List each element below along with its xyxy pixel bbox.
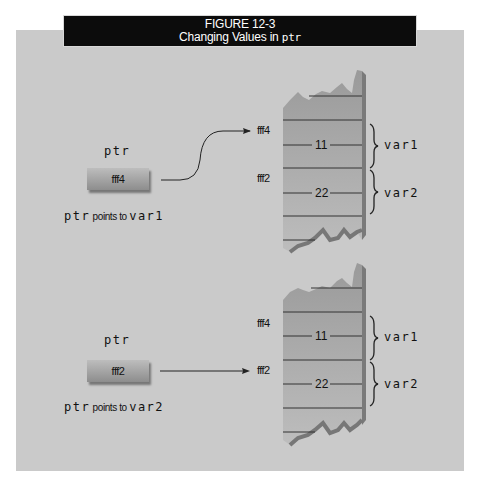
diagram-graphics xyxy=(0,0,478,490)
cell-value-var2-top: 22 xyxy=(315,186,328,200)
cell-value-var2-bottom: 22 xyxy=(315,377,328,391)
address-fff4-bottom: fff4 xyxy=(257,317,270,329)
address-fff2-top: fff2 xyxy=(257,172,270,184)
caption-top: ptr points to var1 xyxy=(64,209,164,223)
cell-value-var1-bottom: 11 xyxy=(315,329,327,343)
brace-var2-bottom xyxy=(370,362,378,406)
pointer-box-bottom: fff2 xyxy=(87,360,149,382)
memory-stack-top xyxy=(283,70,366,252)
caption-bottom: ptr points to var2 xyxy=(64,400,164,414)
brace-var1-top xyxy=(370,124,378,168)
memory-stack-bottom xyxy=(283,263,366,445)
pointer-box-top: fff4 xyxy=(87,168,149,190)
var-label-var2-top: var2 xyxy=(384,186,419,200)
pointer-label-top: ptr xyxy=(104,144,130,158)
arrow-ptr-to-fff4 xyxy=(161,131,250,180)
var-label-var1-top: var1 xyxy=(384,138,419,152)
var-label-var1-bottom: var1 xyxy=(384,330,419,344)
cell-value-var1-top: 11 xyxy=(315,138,327,152)
address-fff2-bottom: fff2 xyxy=(257,364,270,376)
brace-var1-bottom xyxy=(370,316,378,360)
address-fff4-top: fff4 xyxy=(257,124,270,136)
brace-var2-top xyxy=(370,170,378,214)
var-label-var2-bottom: var2 xyxy=(384,377,419,391)
pointer-label-bottom: ptr xyxy=(104,333,130,347)
